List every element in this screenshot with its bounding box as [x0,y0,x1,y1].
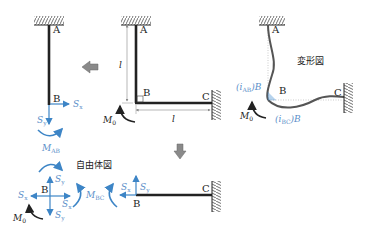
moment-ab-arrow [39,164,62,172]
moment-m0-label: M0 [12,213,26,224]
left-arrow-icon [82,61,98,73]
moment-m0-arrow [120,106,135,122]
node-b-label: B [133,198,140,209]
node-b-label: B [143,87,150,98]
deformed-diagram: A B C 変形図 (iAB)B (iBC)B M0 [236,16,353,125]
node-b-label: B [41,184,48,195]
moment-m0-arrow [29,205,43,219]
structural-diagram: A B Sx Sy MAB A B C l l M0 [0,0,366,236]
member-ab-diagram: A B Sx Sy MAB [34,16,83,154]
deformed-bc [268,96,344,107]
moment-ab-label: MAB [41,143,61,154]
main-frame-diagram: A B C l l M0 [102,16,221,126]
moment-bc-arrow-left [73,184,81,207]
moment-m0-label: M0 [239,111,253,122]
node-c-label: C [202,91,210,102]
sx-label: Sx [121,182,131,193]
moment-bc-label: MBC [85,190,105,201]
rotation-bc-label: (iBC)B [275,114,301,125]
moment-ab-arrow [38,129,62,136]
sx-right-label: Sx [62,199,72,210]
free-body-title: 自由体図 [76,159,112,170]
moment-m0-arrow [252,102,266,118]
length-horizontal-label: l [172,114,175,124]
moment-m0-label: M0 [102,115,116,126]
deformed-title: 変形図 [297,55,324,66]
sy-up-label: Sy [55,174,65,186]
sx-left-label: Sx [18,190,28,201]
node-a-label: A [52,24,61,35]
node-a-label: A [139,24,148,35]
moment-bc-arrow-right [109,184,117,207]
fixed-support-c [212,90,221,120]
member-bc-diagram: C B Sx Sy [120,176,221,212]
sy-down-label: Sy [55,210,65,222]
fixed-support-c [212,181,221,212]
node-c-label: C [202,183,210,194]
free-body-diagram: 自由体図 B Sy Sy Sx Sx MBC M0 [12,159,117,224]
sx-label: Sx [73,99,83,110]
sy-label: Sy [140,182,150,194]
rotation-angle-mark [268,92,276,100]
fixed-support-c [344,83,353,113]
sy-label: Sy [37,115,47,127]
node-a-label: A [271,24,280,35]
down-arrow-icon [174,144,186,159]
node-b-label: B [53,93,60,104]
rotation-ab-label: (iAB)B [236,82,262,93]
length-vertical-label: l [119,60,122,70]
node-c-label: C [334,87,342,98]
node-b-label: B [279,85,286,96]
